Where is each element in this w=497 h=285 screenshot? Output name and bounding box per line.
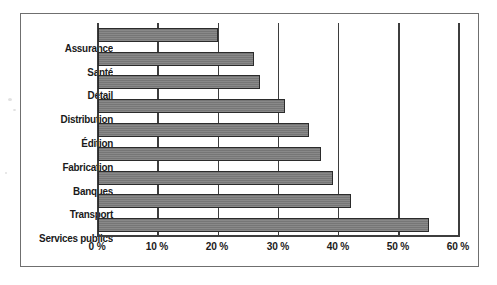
bar-d-tail (98, 75, 260, 89)
category-label-sant-: Santé (0, 65, 113, 79)
bar-row (98, 123, 459, 137)
x-tick-label-30pct: 30 % (266, 240, 288, 252)
x-tick-label-60pct: 60 % (447, 240, 469, 252)
x-tick-label-50pct: 50 % (387, 240, 409, 252)
category-label-fabrication: Fabrication (0, 160, 113, 174)
x-axis-line (98, 235, 459, 237)
category-label-assurance: Assurance (0, 41, 113, 55)
x-axis-tick-labels: 0 %10 %20 %30 %40 %50 %60 % (97, 240, 458, 256)
x-tick-label-20pct: 20 % (206, 240, 228, 252)
x-tick-label-10pct: 10 % (146, 240, 168, 252)
category-label-d-tail: Détail (0, 88, 113, 102)
scan-speck (13, 109, 16, 111)
category-label-distribution: Distribution (0, 112, 113, 126)
x-tick-label-0pct: 0 % (89, 240, 106, 252)
bar-distribution (98, 99, 285, 113)
bar-row (98, 28, 459, 42)
bar-row (98, 171, 459, 185)
bar-assurance (98, 28, 218, 42)
bar-services-publics (98, 218, 429, 232)
bar-row (98, 147, 459, 161)
category-label-transport: Transport (0, 207, 113, 221)
bar-row (98, 52, 459, 66)
plot-area (98, 23, 459, 237)
bar-banques (98, 171, 333, 185)
bar-row (98, 194, 459, 208)
bar-row (98, 75, 459, 89)
chart-frame: AssuranceSantéDétailDistributionÉditionF… (20, 13, 479, 267)
x-tick-label-40pct: 40 % (326, 240, 348, 252)
scanned-page: AssuranceSantéDétailDistributionÉditionF… (0, 0, 497, 285)
bar-transport (98, 194, 351, 208)
category-label--dition: Édition (0, 136, 113, 150)
bar-sant- (98, 52, 254, 66)
bar-row (98, 99, 459, 113)
bar--dition (98, 123, 309, 137)
bar-fabrication (98, 147, 321, 161)
bar-row (98, 218, 459, 232)
category-label-banques: Banques (0, 184, 113, 198)
